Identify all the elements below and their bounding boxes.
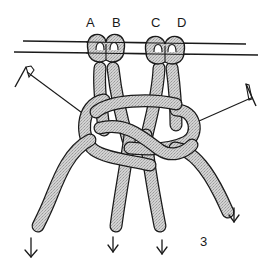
cord-label-a: A	[86, 16, 95, 29]
down-arrow-icon	[157, 240, 167, 254]
knot-illustration	[0, 0, 274, 271]
down-arrow-icon	[108, 237, 118, 252]
loop-ab	[87, 34, 124, 61]
figure-number: 3	[200, 235, 207, 248]
cords	[38, 68, 228, 226]
cord-label-d: D	[177, 16, 186, 29]
cord-label-c: C	[151, 16, 160, 29]
cord-label-b: B	[112, 16, 121, 29]
knot-diagram: A B C D 3	[0, 0, 274, 271]
down-arrow-icon	[25, 238, 37, 257]
loop-cd	[145, 36, 184, 63]
right-pin-icon	[199, 84, 256, 121]
lark-head-loops	[86, 34, 190, 63]
direction-arrows	[25, 208, 239, 257]
left-pin-icon	[15, 66, 89, 118]
